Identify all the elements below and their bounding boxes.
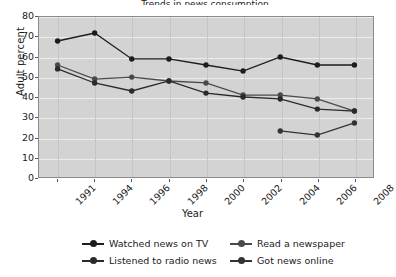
legend-marker-icon <box>230 238 252 249</box>
chart-title: Trends in news consumption <box>120 0 290 5</box>
data-point-marker <box>352 120 357 125</box>
y-axis-tick-mark <box>35 16 38 17</box>
series-line <box>58 69 355 111</box>
series-1 <box>55 62 357 113</box>
data-point-marker <box>129 74 134 79</box>
data-series-layer <box>39 17 373 177</box>
legend-item[interactable]: Listened to radio news <box>82 253 217 268</box>
y-axis-tick-label: 10 <box>0 153 34 163</box>
data-point-marker <box>240 94 245 99</box>
series-3 <box>278 120 358 137</box>
data-point-marker <box>278 128 283 133</box>
data-point-marker <box>315 132 320 137</box>
legend-label: Read a newspaper <box>257 238 345 249</box>
x-axis-tick-mark <box>206 179 207 182</box>
x-axis-tick-mark <box>57 179 58 182</box>
data-point-marker <box>240 68 245 73</box>
data-point-marker <box>55 38 60 43</box>
data-point-marker <box>315 96 320 101</box>
x-axis-tick-label: 1994 <box>110 182 135 207</box>
x-axis-tick-label: 2008 <box>371 182 396 207</box>
x-axis-tick-mark <box>281 179 282 182</box>
x-axis-tick-label: 1996 <box>147 182 172 207</box>
x-axis-tick-mark <box>94 179 95 182</box>
x-axis-tick-label: 2006 <box>334 182 359 207</box>
legend-marker-icon <box>82 255 104 266</box>
data-point-marker <box>166 78 171 83</box>
y-axis-tick-mark <box>35 57 38 58</box>
x-axis-tick-mark <box>131 179 132 182</box>
legend-item[interactable]: Read a newspaper <box>230 236 345 251</box>
data-point-marker <box>352 62 357 67</box>
y-axis-tick-mark <box>35 36 38 37</box>
legend-item[interactable]: Got news online <box>230 253 334 268</box>
data-point-marker <box>129 56 134 61</box>
legend-marker-icon <box>230 255 252 266</box>
x-axis-tick-mark <box>318 179 319 182</box>
legend-label: Listened to radio news <box>109 255 217 266</box>
chart-legend: Watched news on TVRead a newspaperListen… <box>82 236 350 270</box>
data-point-marker <box>55 66 60 71</box>
data-point-marker <box>129 88 134 93</box>
data-point-marker <box>166 56 171 61</box>
data-point-marker <box>278 54 283 59</box>
y-axis-title: Adult percent <box>15 2 26 122</box>
x-axis-tick-mark <box>355 179 356 182</box>
data-point-marker <box>278 96 283 101</box>
y-axis-tick-mark <box>35 158 38 159</box>
data-point-marker <box>203 90 208 95</box>
data-point-marker <box>315 106 320 111</box>
legend-label: Got news online <box>257 255 334 266</box>
data-point-marker <box>315 62 320 67</box>
data-point-marker <box>92 80 97 85</box>
y-axis-tick-mark <box>35 178 38 179</box>
data-point-marker <box>352 108 357 113</box>
series-2 <box>55 66 357 113</box>
y-axis-tick-label: 20 <box>0 133 34 143</box>
data-point-marker <box>203 62 208 67</box>
x-axis-tick-mark <box>169 179 170 182</box>
y-axis-tick-mark <box>35 97 38 98</box>
data-point-marker <box>92 30 97 35</box>
series-0 <box>55 30 357 73</box>
y-axis-tick-mark <box>35 117 38 118</box>
x-axis-tick-label: 2004 <box>297 182 322 207</box>
data-point-marker <box>203 80 208 85</box>
y-axis-tick-mark <box>35 138 38 139</box>
plot-area <box>38 16 374 178</box>
x-axis-title: Year <box>0 208 385 219</box>
x-axis-tick-label: 1998 <box>185 182 210 207</box>
x-axis-tick-label: 2000 <box>222 182 247 207</box>
y-axis-tick-mark <box>35 77 38 78</box>
legend-item[interactable]: Watched news on TV <box>82 236 208 251</box>
x-axis-tick-mark <box>243 179 244 182</box>
series-line <box>58 65 355 111</box>
legend-label: Watched news on TV <box>109 238 208 249</box>
x-axis-tick-label: 1991 <box>73 182 98 207</box>
x-axis-tick-label: 2002 <box>259 182 284 207</box>
legend-marker-icon <box>82 238 104 249</box>
